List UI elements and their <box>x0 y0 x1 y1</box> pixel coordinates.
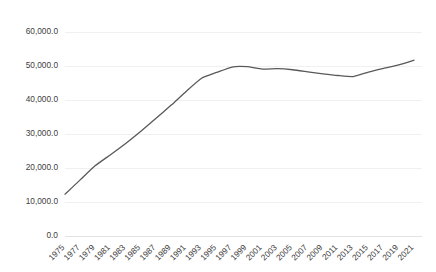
y-axis-tick-label: 60,000.0 <box>26 26 59 36</box>
y-axis-tick-label: 20,000.0 <box>26 162 59 172</box>
gridlines-group <box>65 32 422 236</box>
chart-canvas: 60,000.050,000.040,000.030,000.020,000.0… <box>0 0 436 272</box>
y-axis-tick-label: 40,000.0 <box>26 94 59 104</box>
x-axis-tick-label: 2021 <box>395 242 415 262</box>
y-axis-tick-label: 0.0 <box>46 230 58 240</box>
y-axis-tick-label: 10,000.0 <box>26 196 59 206</box>
y-axis-tick-labels: 60,000.050,000.040,000.030,000.020,000.0… <box>26 26 59 240</box>
y-axis-tick-label: 30,000.0 <box>26 128 59 138</box>
x-axis-tick-labels: 1975197719791981198319851987198919911993… <box>46 242 415 262</box>
line-chart: 60,000.050,000.040,000.030,000.020,000.0… <box>0 0 436 272</box>
y-axis-tick-label: 50,000.0 <box>26 60 59 70</box>
data-series-line <box>65 60 414 194</box>
